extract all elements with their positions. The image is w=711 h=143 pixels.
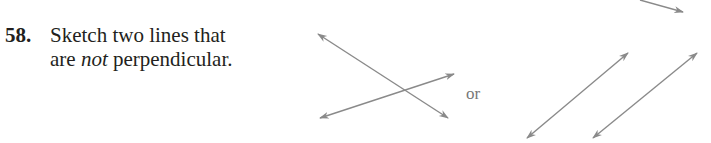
parallel-lines xyxy=(527,53,697,138)
partial-arrow-top xyxy=(640,0,683,12)
intersecting-lines xyxy=(318,34,454,118)
figure-lines xyxy=(0,0,711,143)
